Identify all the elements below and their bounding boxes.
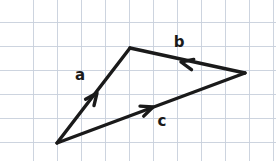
vector-label-b: b	[174, 33, 185, 51]
vector-label-a: a	[75, 66, 85, 84]
vector-label-c: c	[158, 112, 167, 130]
vector-diagram-canvas: abc	[0, 0, 276, 161]
figure-background	[0, 0, 276, 161]
vector-triangle-figure: abc	[0, 0, 276, 161]
